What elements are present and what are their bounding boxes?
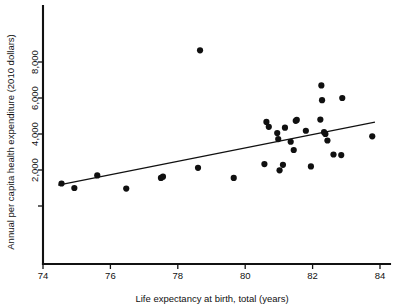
data-point [308,163,314,169]
data-point [275,136,281,142]
data-point [197,47,203,53]
data-point [288,139,294,145]
data-point [274,130,280,136]
data-point [280,162,286,168]
data-point [318,82,324,88]
x-tick-label: 82 [307,270,318,281]
data-point [322,131,328,137]
y-tick-label: 4,000 [29,122,40,146]
data-point [123,185,129,191]
data-point [303,128,309,134]
regression-trend-line [58,122,375,185]
data-points-group [58,47,375,191]
data-point [231,175,237,181]
scatter-chart-figure: 2,0004,0006,0008,000 747678808284 Life e… [0,0,394,307]
y-tick-label: 6,000 [29,86,40,110]
data-point [94,172,100,178]
data-point [261,161,267,167]
x-axis-tick-labels: 747678808284 [38,270,386,281]
x-tick-label: 74 [38,270,49,281]
x-axis-title: Life expectancy at birth, total (years) [135,293,288,304]
data-point [294,117,300,123]
y-tick-label: 8,000 [29,50,40,74]
data-point [338,152,344,158]
y-axis-title: Annual per capita health expenditure (20… [5,34,16,249]
data-point [266,124,272,130]
data-point [282,125,288,131]
chart-canvas: 2,0004,0006,0008,000 747678808284 Life e… [0,0,394,307]
y-tick-label: 2,000 [29,158,40,182]
x-tick-label: 84 [375,270,386,281]
data-point [58,180,64,186]
data-point [317,117,323,123]
data-point [195,165,201,171]
x-tick-label: 80 [240,270,251,281]
data-point [71,185,77,191]
data-point [330,151,336,157]
data-point [291,147,297,153]
data-point [324,137,330,143]
data-point [339,95,345,101]
data-point [319,97,325,103]
data-point [160,174,166,180]
data-point [369,133,375,139]
y-axis-tick-labels: 2,0004,0006,0008,000 [29,50,40,182]
axes-group [43,6,390,264]
x-tick-label: 76 [105,270,116,281]
data-point [276,167,282,173]
x-tick-label: 78 [173,270,184,281]
